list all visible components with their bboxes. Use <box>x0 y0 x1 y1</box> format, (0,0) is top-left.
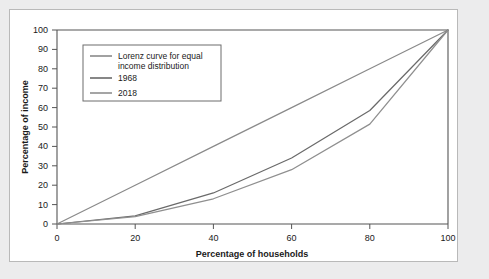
y-tick-label: 60 <box>38 103 48 113</box>
x-tick-label: 80 <box>365 233 375 243</box>
y-tick-label: 20 <box>38 180 48 190</box>
y-tick-label: 90 <box>38 44 48 54</box>
lorenz-curve-chart: 0 10 20 30 40 50 60 70 80 90 100 0 20 40… <box>9 9 458 262</box>
y-tick-label: 80 <box>38 64 48 74</box>
x-axis-ticks: 0 20 40 60 80 100 <box>54 224 455 243</box>
y-tick-label: 0 <box>43 219 48 229</box>
legend-label-2018: 2018 <box>118 88 137 98</box>
y-tick-label: 50 <box>38 122 48 132</box>
figure-background: 0 10 20 30 40 50 60 70 80 90 100 0 20 40… <box>0 0 489 279</box>
x-tick-label: 20 <box>130 233 140 243</box>
x-tick-label: 40 <box>208 233 218 243</box>
legend-label-equality-line2: income distribution <box>118 61 189 71</box>
y-tick-label: 10 <box>38 200 48 210</box>
y-tick-label: 30 <box>38 161 48 171</box>
x-axis-title: Percentage of households <box>196 249 309 259</box>
legend-label-equality-line1: Lorenz curve for equal <box>118 51 203 61</box>
y-axis-ticks: 0 10 20 30 40 50 60 70 80 90 100 <box>33 25 57 229</box>
y-axis-title: Percentage of income <box>20 80 30 174</box>
x-tick-label: 60 <box>287 233 297 243</box>
x-tick-label: 0 <box>54 233 59 243</box>
y-tick-label: 40 <box>38 141 48 151</box>
legend-label-1968: 1968 <box>118 73 137 83</box>
y-tick-label: 70 <box>38 83 48 93</box>
chart-legend: Lorenz curve for equal income distributi… <box>83 45 221 101</box>
y-tick-label: 100 <box>33 25 48 35</box>
x-tick-label: 100 <box>440 233 455 243</box>
